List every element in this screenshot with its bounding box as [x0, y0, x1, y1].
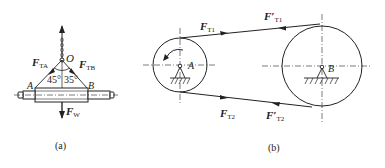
label-pulley-a: A: [187, 60, 195, 71]
angle-left-label: 45°: [47, 74, 61, 85]
force-t2-prime-label: F′T2: [265, 109, 285, 123]
force-t1-label: FT1: [199, 20, 216, 34]
label-o: O: [66, 52, 74, 64]
diagram-canvas: O A B 45° 35° FTA FTB FW (a): [0, 0, 385, 168]
figure-a: O A B 45° 35° FTA FTB FW (a): [14, 26, 118, 152]
label-pulley-b: B: [328, 63, 334, 74]
arrowhead-ft1-icon: [220, 31, 228, 36]
belt-bottom: [180, 92, 312, 107]
figure-b: A B FT1 F′T1 FT2 F′T2 (b): [143, 10, 370, 154]
label-b: B: [88, 80, 94, 91]
force-t1-prime-label: F′T1: [263, 10, 283, 24]
caption-b: (b): [268, 142, 280, 154]
force-tb-label: FTB: [78, 58, 96, 72]
caption-a: (a): [55, 140, 66, 152]
rotation-arc: [166, 49, 183, 58]
force-ta-label: FTA: [31, 56, 48, 70]
angle-right-label: 35°: [64, 74, 78, 85]
arrowhead-ft1-prime-icon: [278, 26, 286, 31]
label-a: A: [26, 80, 34, 91]
force-w-label: FW: [65, 105, 80, 119]
force-t2-label: FT2: [219, 107, 236, 121]
